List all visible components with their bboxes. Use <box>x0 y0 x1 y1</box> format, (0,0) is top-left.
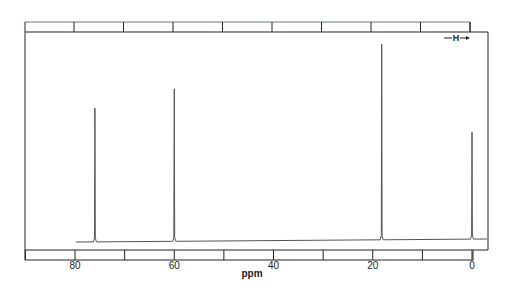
spectrum-trace <box>76 44 487 242</box>
annotation-label: H <box>453 33 460 43</box>
field-direction-annotation: H <box>444 33 470 43</box>
x-tick-label: 40 <box>268 260 280 271</box>
x-tick-label: 60 <box>169 260 181 271</box>
arrow-right-icon <box>466 36 470 40</box>
x-tick-label: 20 <box>367 260 379 271</box>
top-ruler <box>25 22 488 32</box>
x-axis-ruler: 806040200 ppm <box>25 250 475 279</box>
x-tick-label: 0 <box>469 260 475 271</box>
x-tick-label: 80 <box>69 260 81 271</box>
nmr-spectrum-chart: 806040200 ppm H <box>0 0 513 291</box>
x-axis-label: ppm <box>241 268 262 279</box>
